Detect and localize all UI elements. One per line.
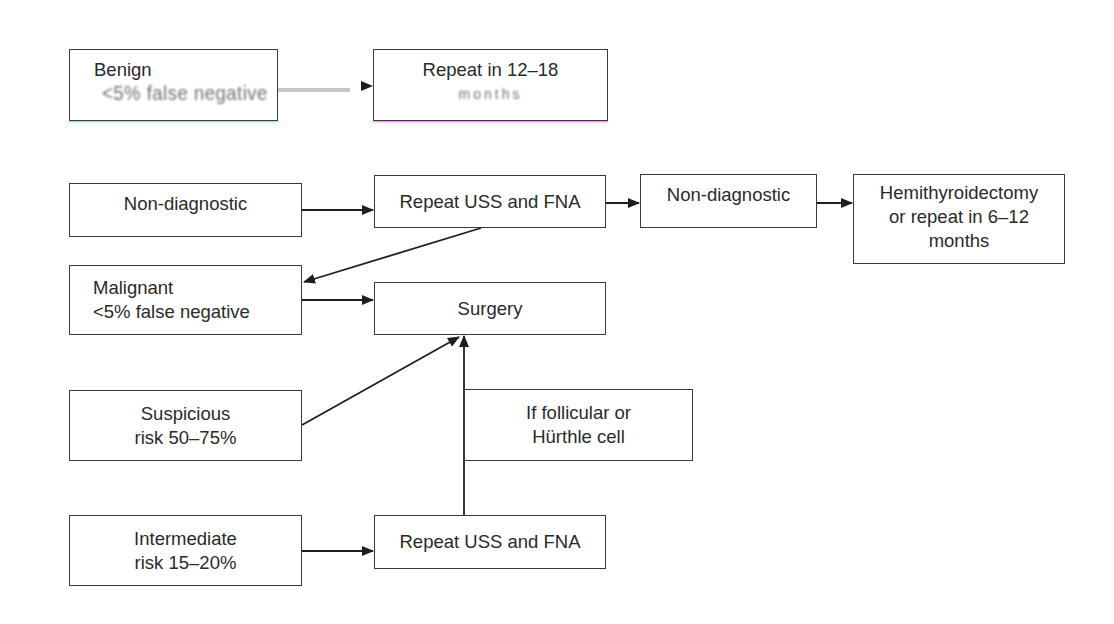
node-malignant: Malignant <5% false negative: [69, 265, 302, 335]
node-hemithyroidectomy-line-1: Hemithyroidectomy: [880, 181, 1038, 205]
node-suspicious-title: Suspicious: [141, 402, 230, 426]
arrow-suspicious-to-surgery: [302, 337, 459, 425]
arrow-benign-to-repeat: [278, 86, 372, 90]
node-repeat-12-18: Repeat in 12–18 months: [373, 49, 608, 121]
node-non-diagnostic-2-label: Non-diagnostic: [667, 183, 790, 207]
node-intermediate-subtitle: risk 15–20%: [135, 551, 237, 575]
node-intermediate-title: Intermediate: [134, 527, 237, 551]
node-suspicious-subtitle: risk 50–75%: [135, 426, 237, 450]
node-repeat-uss-fna-2: Repeat USS and FNA: [374, 515, 606, 569]
node-benign: Benign <5% false negative: [69, 49, 278, 121]
node-surgery: Surgery: [374, 282, 606, 335]
node-intermediate: Intermediate risk 15–20%: [69, 515, 302, 586]
node-follicular-line-1: If follicular or: [526, 401, 631, 425]
node-follicular-condition: If follicular or Hürthle cell: [464, 389, 693, 461]
node-surgery-label: Surgery: [458, 297, 523, 321]
node-non-diagnostic: Non-diagnostic: [69, 183, 302, 237]
node-malignant-title: Malignant: [93, 276, 173, 300]
node-benign-subtitle-blurred: <5% false negative: [102, 81, 268, 106]
node-repeat-uss-fna-1: Repeat USS and FNA: [374, 175, 606, 228]
node-malignant-subtitle: <5% false negative: [93, 300, 250, 324]
node-non-diagnostic-2: Non-diagnostic: [640, 174, 817, 228]
node-follicular-line-2: Hürthle cell: [532, 425, 625, 449]
node-repeat-uss-fna-2-label: Repeat USS and FNA: [400, 530, 581, 554]
node-repeat-uss-fna-1-label: Repeat USS and FNA: [400, 190, 581, 214]
flowchart-canvas: Benign <5% false negative Repeat in 12–1…: [0, 0, 1114, 624]
node-repeat-12-18-subtitle-blurred: months: [459, 81, 523, 106]
node-repeat-12-18-title: Repeat in 12–18: [423, 58, 559, 82]
node-non-diagnostic-label: Non-diagnostic: [124, 192, 247, 216]
arrow-repeat-uss-to-malignant: [304, 228, 481, 282]
node-hemithyroidectomy-line-2: or repeat in 6–12: [889, 205, 1029, 229]
node-suspicious: Suspicious risk 50–75%: [69, 390, 302, 461]
node-benign-title: Benign: [94, 58, 152, 82]
node-hemithyroidectomy-line-3: months: [929, 229, 990, 253]
node-hemithyroidectomy: Hemithyroidectomy or repeat in 6–12 mont…: [853, 174, 1065, 264]
